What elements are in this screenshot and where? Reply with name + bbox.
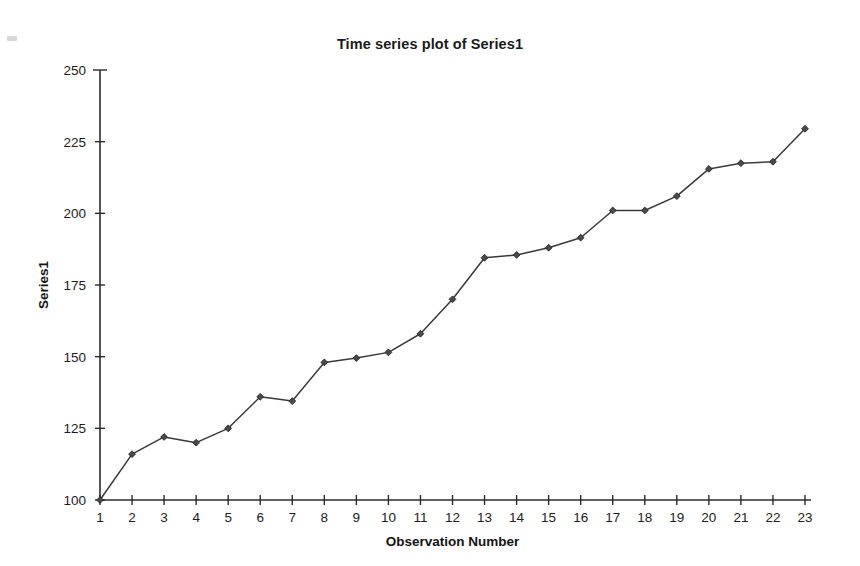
series-polyline [100, 129, 805, 500]
x-tick-label: 21 [733, 510, 748, 525]
x-tick-label: 17 [605, 510, 620, 525]
chart-screenshot: Time series plot of Series1 100125150175… [0, 0, 860, 566]
y-tick-label: 150 [63, 350, 86, 365]
x-tick-label: 13 [477, 510, 492, 525]
data-point-marker [545, 244, 552, 251]
x-axis-title: Observation Number [386, 534, 520, 549]
series-line-series1 [97, 125, 809, 503]
chart-plot-area: 100125150175200225250 123456789101112131… [0, 0, 860, 566]
data-point-marker [353, 355, 360, 362]
x-tick-label: 3 [160, 510, 168, 525]
y-tick-label: 100 [63, 493, 86, 508]
x-tick-label: 11 [413, 510, 427, 525]
x-tick-label: 23 [797, 510, 812, 525]
data-point-marker [161, 434, 168, 441]
x-tick-label: 15 [541, 510, 556, 525]
data-point-marker [738, 160, 745, 167]
y-tick-label: 125 [63, 421, 86, 436]
y-tick-label: 250 [63, 63, 86, 78]
x-tick-label: 20 [701, 510, 716, 525]
x-tick-label: 1 [96, 510, 104, 525]
data-point-marker [641, 207, 648, 214]
x-tick-label: 9 [353, 510, 361, 525]
x-tick-label: 8 [321, 510, 329, 525]
x-tick-label: 6 [256, 510, 264, 525]
x-tick-label: 7 [289, 510, 297, 525]
y-tick-label: 225 [63, 135, 86, 150]
y-tick-label: 175 [63, 278, 86, 293]
x-tick-label: 22 [765, 510, 780, 525]
x-tick-label: 5 [224, 510, 232, 525]
data-point-marker [513, 252, 520, 259]
x-tick-label: 18 [637, 510, 652, 525]
y-axis-title: Series1 [36, 260, 51, 309]
x-axis: 1234567891011121314151617181920212223 [96, 495, 812, 525]
y-tick-label: 200 [63, 206, 86, 221]
y-axis: 100125150175200225250 [63, 63, 107, 508]
x-tick-label: 14 [509, 510, 525, 525]
x-tick-label: 4 [192, 510, 200, 525]
data-point-marker [193, 439, 200, 446]
x-tick-label: 19 [669, 510, 684, 525]
x-tick-label: 2 [128, 510, 136, 525]
x-tick-label: 10 [381, 510, 396, 525]
x-tick-label: 16 [573, 510, 588, 525]
x-tick-label: 12 [445, 510, 460, 525]
data-point-marker [385, 349, 392, 356]
